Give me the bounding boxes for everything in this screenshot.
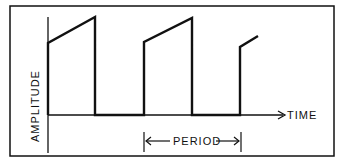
waveform-line	[48, 17, 258, 115]
period-label: PERIOD	[173, 135, 221, 147]
waveform-diagram: PERIOD TIME AMPLITUDE	[0, 0, 340, 163]
amplitude-label: AMPLITUDE	[29, 70, 41, 142]
time-label: TIME	[287, 109, 317, 121]
